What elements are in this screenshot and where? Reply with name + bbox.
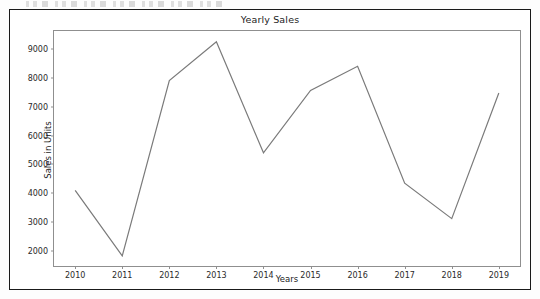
x-axis-tick-mark: [263, 266, 264, 269]
data-series-line: [75, 42, 499, 256]
x-axis-tick-mark: [311, 266, 312, 269]
y-axis-tick-mark: [51, 222, 54, 223]
y-axis-tick-mark: [51, 250, 54, 251]
x-axis-tick-mark: [122, 266, 123, 269]
x-axis-tick-mark: [169, 266, 170, 269]
x-axis-tick-mark: [216, 266, 217, 269]
cropped-text-artifact: [26, 1, 226, 7]
x-axis-tick-mark: [405, 266, 406, 269]
y-axis-label: Sales in Units: [43, 121, 53, 179]
x-axis-tick-mark: [452, 266, 453, 269]
y-axis-tick-mark: [51, 164, 54, 165]
y-axis-tick-mark: [51, 48, 54, 49]
y-axis-tick-mark: [51, 77, 54, 78]
y-axis-tick-mark: [51, 106, 54, 107]
y-axis-tick-mark: [51, 135, 54, 136]
x-axis-tick-mark: [358, 266, 359, 269]
chart-figure: Yearly Sales Sales in Units Years 200030…: [9, 9, 531, 290]
line-chart-svg: [54, 31, 520, 266]
plot-area: 2000300040005000600070008000900020102011…: [53, 30, 521, 267]
page-background: Yearly Sales Sales in Units Years 200030…: [0, 0, 540, 299]
chart-title: Yearly Sales: [10, 14, 530, 25]
x-axis-tick-mark: [499, 266, 500, 269]
x-axis-tick-mark: [75, 266, 76, 269]
y-axis-tick-mark: [51, 193, 54, 194]
